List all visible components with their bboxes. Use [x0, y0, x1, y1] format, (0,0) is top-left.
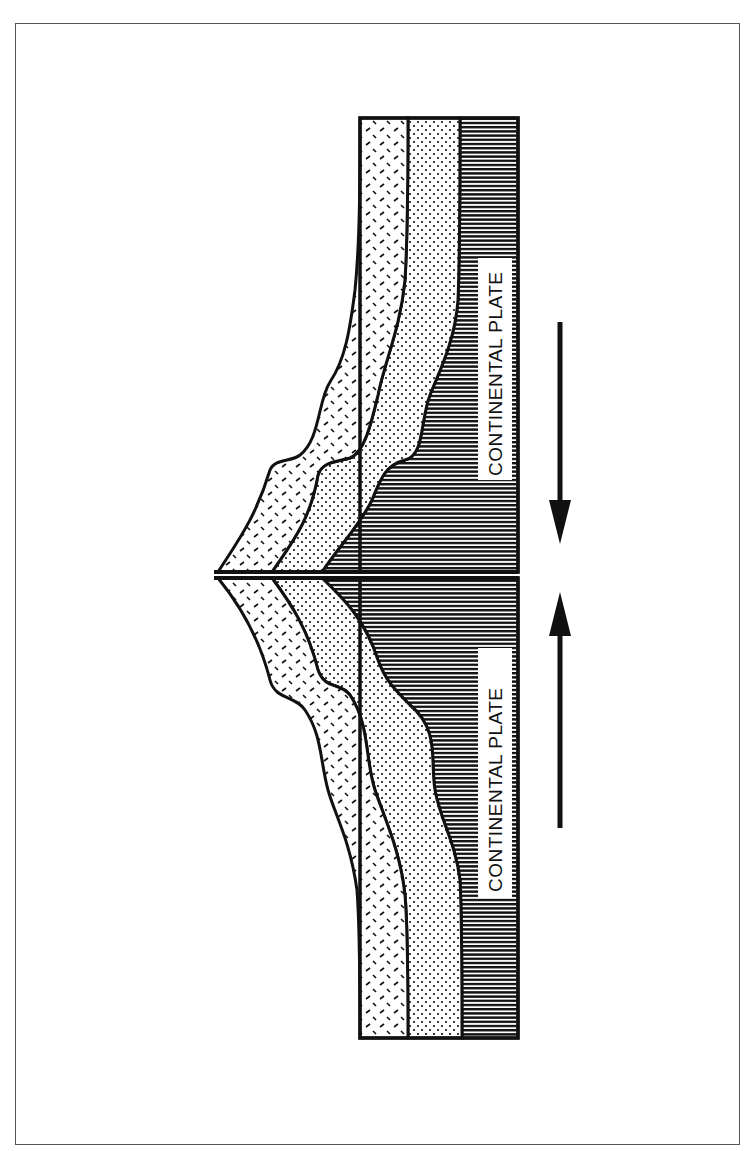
arrow-up-icon — [549, 592, 571, 828]
upper-plate-label: CONTINENTAL PLATE — [478, 258, 512, 480]
lower-plate-label: CONTINENTAL PLATE — [478, 648, 512, 898]
upper-plate — [218, 118, 518, 572]
arrow-down-icon — [549, 322, 571, 544]
svg-text:CONTINENTAL PLATE: CONTINENTAL PLATE — [485, 271, 506, 476]
lower-plate — [218, 578, 518, 1038]
svg-text:CONTINENTAL PLATE: CONTINENTAL PLATE — [485, 687, 506, 892]
collision-diagram: CONTINENTAL PLATE CONTINENTAL PLATE — [0, 0, 753, 1151]
